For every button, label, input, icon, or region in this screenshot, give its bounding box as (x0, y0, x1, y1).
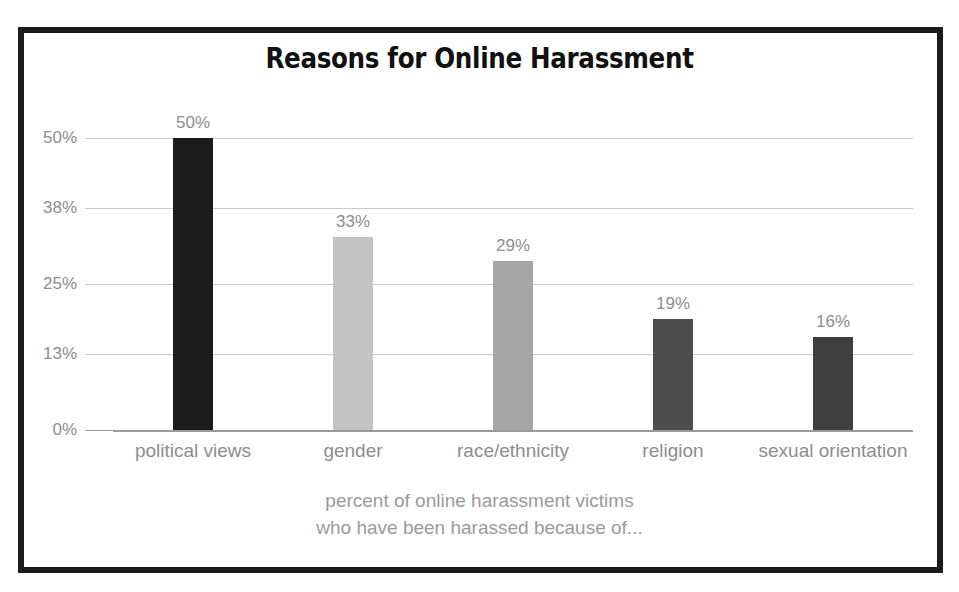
y-axis-tick-mark (85, 138, 113, 139)
y-axis-tick-mark (85, 208, 113, 209)
gridline (113, 208, 913, 209)
y-axis-tick-mark (85, 354, 113, 355)
x-axis-category-label: race/ethnicity (457, 440, 569, 462)
bar-value-label: 50% (176, 113, 210, 133)
x-axis-category-label: sexual orientation (759, 440, 908, 462)
axis-baseline (113, 430, 913, 432)
chart-caption: percent of online harassment victims who… (0, 487, 959, 541)
chart-figure: Reasons for Online Harassment 0%13%25%38… (0, 0, 959, 592)
y-axis-tick-label: 38% (43, 198, 77, 218)
bar[interactable]: 33% (333, 237, 373, 430)
x-axis-category-label: religion (642, 440, 703, 462)
caption-line-2: who have been harassed because of... (0, 514, 959, 541)
x-axis-category-label: political views (135, 440, 251, 462)
bar-value-label: 29% (496, 236, 530, 256)
bar[interactable]: 50% (173, 138, 213, 430)
x-axis-category-label: gender (323, 440, 382, 462)
y-axis-tick-label: 50% (43, 128, 77, 148)
bar[interactable]: 19% (653, 319, 693, 430)
y-axis-tick-mark (85, 284, 113, 285)
plot-area: 0%13%25%38%50%50%33%29%19%16% (113, 138, 913, 430)
y-axis-tick-label: 0% (52, 420, 77, 440)
caption-line-1: percent of online harassment victims (0, 487, 959, 514)
bar[interactable]: 29% (493, 261, 533, 430)
bar-value-label: 16% (816, 312, 850, 332)
chart-title: Reasons for Online Harassment (58, 42, 902, 75)
bar[interactable]: 16% (813, 337, 853, 430)
gridline (113, 138, 913, 139)
bar-value-label: 19% (656, 294, 690, 314)
bar-value-label: 33% (336, 212, 370, 232)
y-axis-tick-label: 13% (43, 344, 77, 364)
y-axis-tick-label: 25% (43, 274, 77, 294)
y-axis-tick-mark (85, 430, 113, 431)
